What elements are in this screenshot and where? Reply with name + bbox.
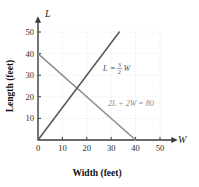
y-tick-label-20: 20 — [26, 92, 35, 102]
y-axis-title: Length (feet) — [5, 60, 16, 113]
y-tick-label-50: 50 — [26, 27, 35, 37]
linear-system-chart: 10 20 30 40 50 0 10 20 30 40 50 L = 3 2 … — [0, 0, 199, 187]
y-tick-label-10: 10 — [26, 113, 35, 123]
equation1-fraction-denominator: 2 — [118, 69, 121, 75]
x-tick-label-30: 30 — [107, 143, 116, 153]
x-tick-label-50: 50 — [156, 143, 165, 153]
equation1-equals: = — [110, 64, 115, 73]
x-tick-label-0: 0 — [36, 143, 40, 153]
x-tick-label-20: 20 — [83, 143, 92, 153]
x-tick-label-10: 10 — [58, 143, 67, 153]
equation1-fraction-numerator: 3 — [118, 62, 121, 68]
equation1-lhs: L — [102, 64, 108, 73]
chart-figure: 10 20 30 40 50 0 10 20 30 40 50 L = 3 2 … — [0, 0, 199, 187]
x-axis-title: Width (feet) — [72, 168, 121, 179]
y-tick-label-40: 40 — [26, 49, 35, 59]
equation-label-perimeter: 2L + 2W = 80 — [108, 99, 154, 108]
x-tick-label-40: 40 — [131, 143, 140, 153]
y-tick-label-30: 30 — [26, 70, 35, 80]
y-axis-variable-label: L — [44, 8, 51, 19]
